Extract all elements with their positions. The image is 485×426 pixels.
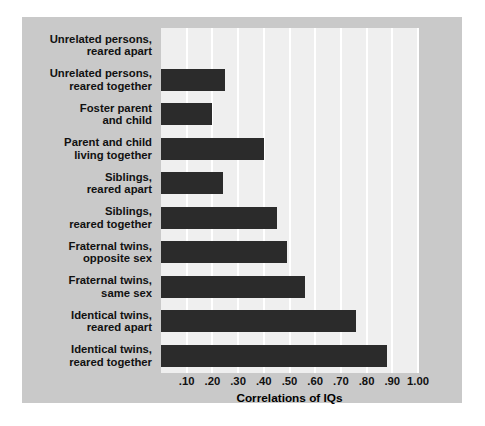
category-label: Parent and childliving together <box>22 132 157 167</box>
x-tick-label: .50 <box>282 375 298 387</box>
plot-area <box>161 28 418 373</box>
bar-row <box>161 28 418 63</box>
category-label-line2: reared apart <box>87 321 152 334</box>
category-label-line2: reared together <box>69 218 152 231</box>
bar-row <box>161 235 418 270</box>
bar-row <box>161 97 418 132</box>
category-label-line1: Unrelated persons, <box>50 33 152 46</box>
category-label-line1: Parent and child <box>64 136 152 149</box>
category-label: Identical twins,reared together <box>22 339 157 374</box>
category-label-line1: Foster parent <box>80 102 152 115</box>
value-axis-tick-labels: .10.20.30.40.50.60.70.80.901.00 <box>161 375 418 391</box>
bar <box>161 276 305 298</box>
category-label-line2: reared together <box>69 356 152 369</box>
bar <box>161 103 212 125</box>
category-label: Siblings,reared apart <box>22 166 157 201</box>
x-tick-label: 1.00 <box>407 375 429 387</box>
bar-row <box>161 304 418 339</box>
category-label-line1: Unrelated persons, <box>50 67 152 80</box>
bar-row <box>161 166 418 201</box>
category-label: Fraternal twins,same sex <box>22 270 157 305</box>
x-tick-label: .80 <box>359 375 375 387</box>
bar-row <box>161 132 418 167</box>
x-tick-label: .10 <box>179 375 195 387</box>
category-label: Identical twins,reared apart <box>22 304 157 339</box>
category-label: Fraternal twins,opposite sex <box>22 235 157 270</box>
bar <box>161 345 387 367</box>
bar <box>161 241 287 263</box>
category-label-line2: reared together <box>69 80 152 93</box>
category-label-line2: reared apart <box>87 183 152 196</box>
category-axis-labels: Unrelated persons,reared apartUnrelated … <box>22 28 157 373</box>
x-tick-label: .70 <box>333 375 349 387</box>
category-label-line1: Siblings, <box>105 171 152 184</box>
category-label: Unrelated persons,reared apart <box>22 28 157 63</box>
category-label-line2: reared apart <box>87 45 152 58</box>
category-label-line1: Identical twins, <box>71 343 152 356</box>
category-label-line2: same sex <box>101 287 152 300</box>
bar <box>161 310 356 332</box>
bar <box>161 69 225 91</box>
bar-series <box>161 28 418 373</box>
bar <box>161 138 264 160</box>
x-axis-title: Correlations of IQs <box>161 391 418 405</box>
category-label: Siblings,reared together <box>22 201 157 236</box>
bar <box>161 207 277 229</box>
chart-figure: Unrelated persons,reared apartUnrelated … <box>22 17 462 403</box>
bar-row <box>161 339 418 374</box>
x-tick-label: .90 <box>384 375 400 387</box>
category-label-line2: and child <box>102 114 152 127</box>
category-label-line2: living together <box>74 149 152 162</box>
bar-row <box>161 270 418 305</box>
bar-row <box>161 63 418 98</box>
category-label: Foster parentand child <box>22 97 157 132</box>
category-label-line1: Identical twins, <box>71 309 152 322</box>
category-label-line1: Siblings, <box>105 205 152 218</box>
category-label-line1: Fraternal twins, <box>69 274 153 287</box>
category-label: Unrelated persons,reared together <box>22 63 157 98</box>
x-tick-label: .60 <box>307 375 323 387</box>
x-tick-label: .30 <box>230 375 246 387</box>
bar <box>161 172 223 194</box>
category-label-line2: opposite sex <box>83 252 152 265</box>
category-label-line1: Fraternal twins, <box>69 240 153 253</box>
bar-row <box>161 201 418 236</box>
x-tick-label: .40 <box>256 375 272 387</box>
x-tick-label: .20 <box>205 375 221 387</box>
